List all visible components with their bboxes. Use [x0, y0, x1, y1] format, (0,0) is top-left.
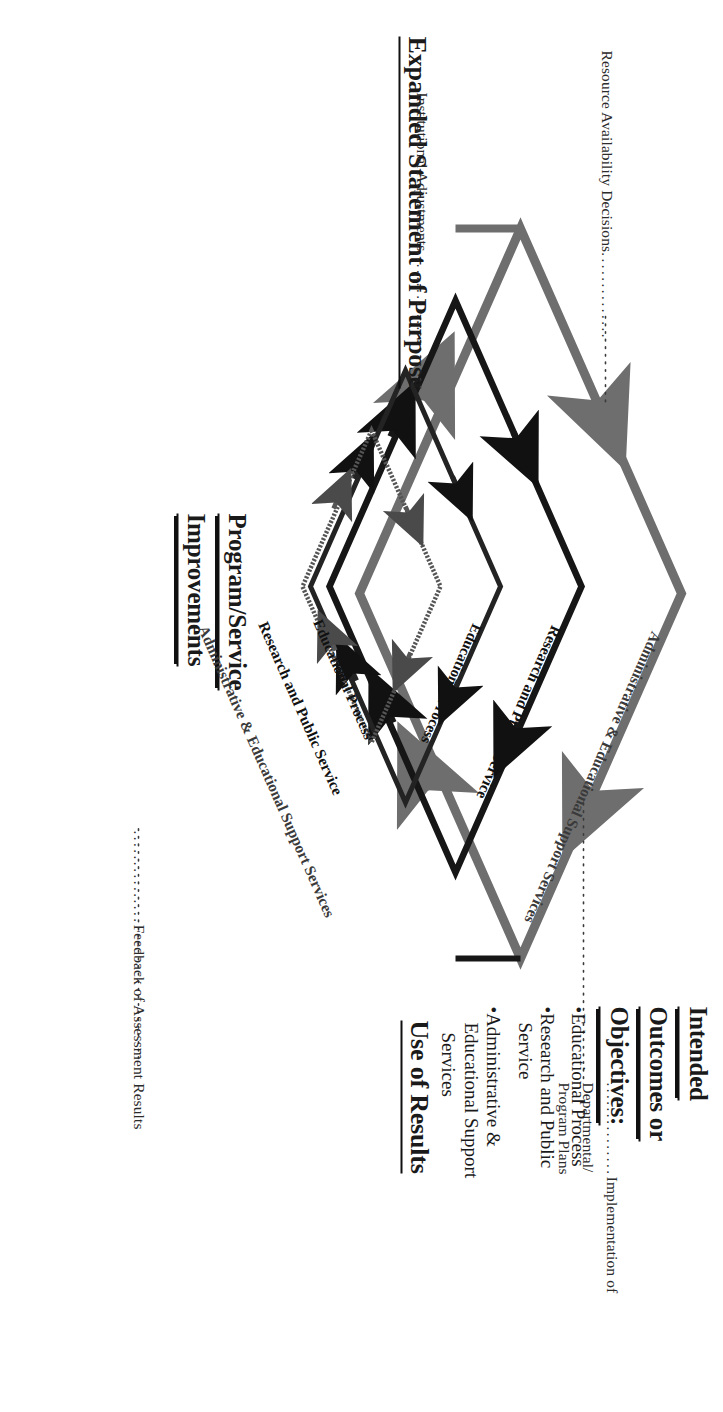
- leader-dots-feedback: ...............: [130, 830, 147, 924]
- intended-bullet-3-cont1: Educational Support: [458, 1006, 480, 1306]
- leader-dots-implementation: ...............: [603, 1082, 620, 1176]
- label-institutional-adjustments: Institutional Adjustments...............: [412, 92, 430, 345]
- label-resource-availability: Resource Availability Decisions.........…: [597, 50, 615, 340]
- intended-bullet-2-cont: Service: [512, 1006, 534, 1306]
- diagram-canvas: Expanded Statement of Purpose Use of Res…: [0, 0, 723, 1412]
- leader-dots-resource: ..............: [598, 252, 615, 340]
- intended-bullet-3: •Administrative &: [481, 1006, 503, 1306]
- leader-dots-institutional: ...............: [413, 251, 430, 345]
- intended-bullet-3-cont2: Services: [436, 1006, 458, 1306]
- label-institutional-adjustments-text: Institutional Adjustments: [413, 92, 430, 251]
- label-resource-availability-text: Resource Availability Decisions: [598, 50, 615, 252]
- label-feedback-assessment: ...............Feedback of Assessment Re…: [129, 830, 147, 1129]
- diagram-page: Expanded Statement of Purpose Use of Res…: [0, 0, 723, 1412]
- label-implementation-line2: Program Plans: [551, 1082, 575, 1382]
- label-implementation: ...............Implementation of Departm…: [551, 1082, 623, 1382]
- label-feedback-assessment-text: Feedback of Assessment Results: [130, 924, 147, 1129]
- heading-intended-line2: Outcomes or: [638, 1006, 674, 1306]
- heading-intended-line1: Intended: [678, 1006, 714, 1306]
